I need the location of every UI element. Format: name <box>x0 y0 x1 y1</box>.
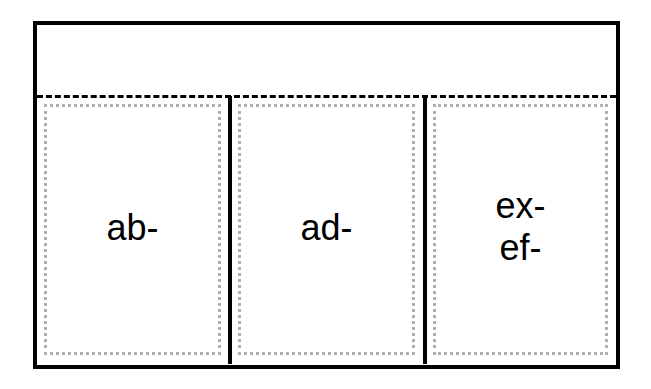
label-line: ef- <box>433 227 608 269</box>
label-line: ex- <box>433 185 608 227</box>
column-2-label: ad- <box>238 207 415 249</box>
column-3-label: ex- ef- <box>433 185 608 269</box>
column-divider-1 <box>228 96 232 364</box>
header-divider-dashed <box>37 95 616 98</box>
column-1-label: ab- <box>44 207 221 249</box>
label-line: ad- <box>238 207 415 249</box>
label-line: ab- <box>44 207 221 249</box>
column-divider-2 <box>423 96 427 364</box>
